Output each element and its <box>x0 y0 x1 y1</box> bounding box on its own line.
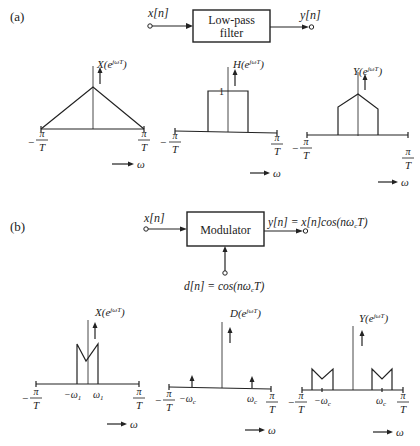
omega-axis <box>175 131 277 133</box>
plot-a-Y: Y(ejωT) − π T π T ω <box>292 65 414 188</box>
plot-title: H(ejωT) <box>232 58 264 71</box>
signal-processing-diagram: (a) x[n] Low-pass filter y[n] X(ejωT) − … <box>0 0 420 446</box>
lowpass-output-label: y[n] <box>299 8 321 22</box>
carrier-label: d[n] = cos(nωcT) <box>184 280 265 294</box>
omega-label: ω <box>396 426 404 438</box>
minus-sign: − <box>155 394 161 406</box>
pi-label: π <box>166 388 172 399</box>
T-label: T <box>274 145 281 157</box>
arrowhead-icon <box>93 322 98 328</box>
pi-label: π <box>141 128 147 139</box>
pi-label: π <box>39 128 45 139</box>
lowpass-block-diagram: x[n] Low-pass filter y[n] <box>147 6 321 42</box>
lowpass-input-label: x[n] <box>147 6 169 20</box>
arrowhead-icon <box>360 330 365 336</box>
arrowhead-icon <box>223 246 228 252</box>
pi-label: π <box>33 386 39 397</box>
pi-label: π <box>400 390 406 401</box>
pi-label: π <box>405 146 411 157</box>
carrier-terminal-icon <box>223 271 227 275</box>
input-terminal-icon <box>148 24 152 28</box>
T-label: T <box>405 159 412 171</box>
T-label: T <box>141 141 148 153</box>
m-band-neg-spectrum <box>312 369 333 390</box>
T-label: T <box>303 149 310 161</box>
m-band-pos-spectrum <box>372 369 392 390</box>
output-terminal-icon <box>309 25 313 29</box>
omega-label: ω <box>268 424 276 436</box>
omega-label: ω <box>130 418 138 430</box>
T-label: T <box>166 401 173 413</box>
output-terminal-icon <box>303 229 307 233</box>
plot-title: D(ejωT) <box>229 307 261 320</box>
pi-label: π <box>269 390 275 401</box>
omega-axis <box>169 387 271 389</box>
arrowhead-icon <box>250 376 255 382</box>
input-terminal-icon <box>144 227 148 231</box>
arrowhead-icon <box>190 375 195 381</box>
plot-a-H: H(ejωT) 1 − π T π T ω <box>160 58 283 179</box>
minus-sign: − <box>288 396 294 408</box>
part-a-label: (a) <box>10 9 24 24</box>
m-band-spectrum <box>77 344 98 384</box>
minus-sign: − <box>28 136 34 148</box>
arrowhead-icon <box>228 327 233 333</box>
tick-label-pos: ωc <box>247 393 258 406</box>
pi-label: π <box>136 386 142 397</box>
omega-label: ω <box>137 158 145 170</box>
arrowhead-icon <box>121 422 127 427</box>
modulator-title: Modulator <box>200 223 251 237</box>
arrowhead-icon <box>186 23 193 29</box>
arrowhead-icon <box>259 428 265 433</box>
minus-sign: − <box>22 392 28 404</box>
T-label: T <box>298 403 305 415</box>
modulator-input-label: x[n] <box>143 211 165 225</box>
modulator-output-label: y[n] = x[n]cos(nωcT) <box>267 216 368 230</box>
plot-title: X(ejωT) <box>94 306 125 319</box>
T-label: T <box>33 399 40 411</box>
plot-title: Y(ejωT) <box>353 65 382 78</box>
pi-label: π <box>274 132 280 143</box>
minus-sign: − <box>292 142 298 154</box>
arrowhead-icon <box>296 229 303 234</box>
omega-label: ω <box>273 167 281 179</box>
T-label: T <box>136 399 143 411</box>
T-label: T <box>172 143 179 155</box>
tick-label-neg: −ωc <box>314 395 332 408</box>
omega-label: ω <box>401 176 409 188</box>
tick-label-neg: −ω1 <box>64 389 81 402</box>
arrowhead-icon <box>302 25 309 30</box>
triangle-spectrum <box>41 87 144 129</box>
arrowhead-icon <box>180 227 187 232</box>
plot-b-X: X(ejωT) −ω1 ω1 − π T π T ω <box>22 306 145 430</box>
height-label: 1 <box>219 86 224 97</box>
T-label: T <box>269 403 276 415</box>
lowpass-title-line1: Low-pass <box>208 13 255 27</box>
lowpass-title-line2: filter <box>220 26 243 40</box>
arrowhead-icon <box>392 180 398 185</box>
arrowhead-icon <box>387 430 393 435</box>
plot-b-D: D(ejωT) −ωc ωc − π T π T ω <box>155 307 278 436</box>
tick-label-neg: −ωc <box>179 393 197 406</box>
T-label: T <box>400 403 407 415</box>
arrowhead-icon <box>264 171 270 176</box>
plot-title: Y(ejωT) <box>359 312 388 325</box>
pi-label: π <box>303 136 309 147</box>
modulator-block-diagram: x[n] Modulator y[n] = x[n]cos(nωcT) d[n]… <box>143 211 368 294</box>
plot-b-Y: Y(ejωT) −ωc ωc − π T π T ω <box>288 312 409 438</box>
tick-label-pos: ω1 <box>93 389 104 402</box>
T-label: T <box>39 141 46 153</box>
plot-a-X: X(ejωT) − π T π T ω <box>28 58 150 170</box>
arrowhead-icon <box>128 162 134 167</box>
part-b-label: (b) <box>10 219 25 234</box>
pi-label: π <box>298 390 304 401</box>
tick-label-pos: ωc <box>376 395 387 408</box>
minus-sign: − <box>160 136 166 148</box>
